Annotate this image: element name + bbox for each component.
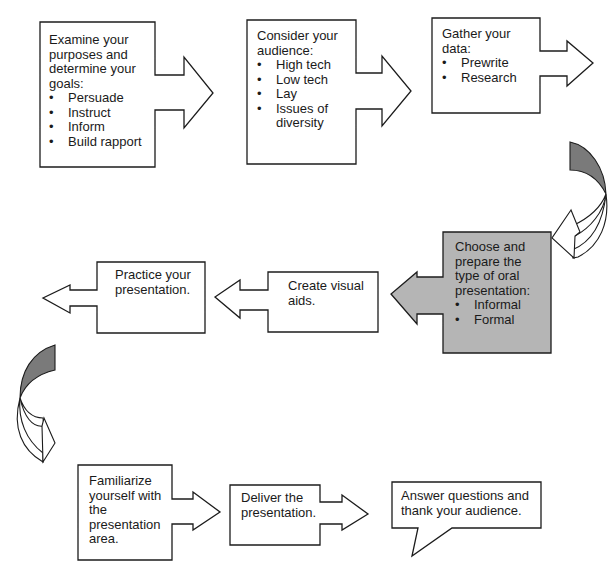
step-6-heading: Practice your presentation.	[115, 268, 203, 297]
step-4-heading: Choose and prepare the type of oral pres…	[455, 240, 549, 298]
bullet-item: Prewrite	[442, 56, 537, 71]
step-2-heading: Consider your audience:	[257, 29, 355, 58]
step-4-bullets: Informal Formal	[455, 298, 549, 327]
step-8-heading: Deliver the presentation.	[241, 491, 319, 520]
bullet-item: Informal	[455, 298, 549, 313]
bullet-item: Research	[442, 71, 537, 86]
step-8-text: Deliver the presentation.	[241, 491, 319, 520]
step-1-heading: Examine your purposes and determine your…	[49, 33, 153, 91]
step-7-text: Familiarize yourself with the presentati…	[89, 474, 169, 547]
step-2-text: Consider your audience: High tech Low te…	[257, 29, 355, 131]
step-1-bullets: Persuade Instruct Inform Build rapport	[49, 91, 153, 149]
step-9-heading: Answer questions and thank your audience…	[401, 489, 539, 518]
bullet-item: Inform	[49, 120, 153, 135]
bullet-item: Formal	[455, 313, 549, 328]
curved-arrow-icon	[17, 345, 55, 462]
step-3-heading: Gather your data:	[442, 27, 537, 56]
step-6-text: Practice your presentation.	[115, 268, 203, 297]
step-7-heading: Familiarize yourself with the presentati…	[89, 474, 169, 547]
bullet-item: Persuade	[49, 91, 153, 106]
step-5-text: Create visual aids.	[288, 279, 372, 308]
step-5-heading: Create visual aids.	[288, 279, 372, 308]
step-2-bullets: High tech Low tech Lay Issues of diversi…	[257, 58, 355, 131]
bullet-item: Lay	[257, 87, 355, 102]
step-3-text: Gather your data: Prewrite Research	[442, 27, 537, 85]
bullet-item: High tech	[257, 58, 355, 73]
step-1-text: Examine your purposes and determine your…	[49, 33, 153, 149]
bullet-item: Instruct	[49, 106, 153, 121]
bullet-item: Low tech	[257, 73, 355, 88]
step-4-text: Choose and prepare the type of oral pres…	[455, 240, 549, 327]
step-9-text: Answer questions and thank your audience…	[401, 489, 539, 518]
bullet-item: Issues of diversity	[257, 102, 355, 131]
step-3-bullets: Prewrite Research	[442, 56, 537, 85]
bullet-item: Build rapport	[49, 135, 153, 150]
curved-arrow-icon	[552, 142, 607, 258]
